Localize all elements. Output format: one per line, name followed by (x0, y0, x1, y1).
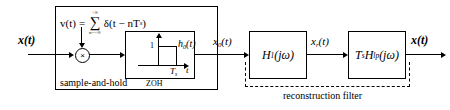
sigma-glyph: ∑ (90, 15, 101, 30)
xr-arg: (t) (319, 35, 329, 47)
wire-lowpass-to-output (406, 54, 441, 55)
lowpass-Ts-symbol: T (355, 48, 362, 63)
impulse-train-equals: = (79, 17, 85, 29)
zoh-plot-vaxis-arrowhead (156, 33, 162, 38)
h1-symbol: H (262, 48, 271, 63)
impulse-train-term: δ(t − nT (104, 17, 140, 29)
h1-arg: (jω) (274, 48, 294, 63)
zoh-time-axis-label: t (186, 65, 189, 75)
wire-impulse-train-to-multiplier (81, 27, 82, 44)
block-diagram: v(t) = +∞ ∑ n=−∞ δ(t − nTs) x(t) × 1 h0 (0, 0, 450, 110)
zoh-plot-horizontal-axis (138, 65, 185, 66)
zoh-plot-vertical-axis (158, 37, 159, 65)
zoh-output-signal-label: x0(t) (213, 35, 232, 48)
wire-input-to-multiplier (28, 54, 69, 55)
impulse-train-lhs: v(t) (60, 17, 76, 29)
zoh-h-arg: (t) (186, 38, 195, 49)
arrowhead-output (441, 52, 446, 58)
zoh-amplitude-tick-label: 1 (150, 41, 154, 50)
wire-zoh-to-h1 (195, 54, 244, 55)
zoh-pulse-top (158, 46, 176, 47)
reconstruction-filter-caption: reconstruction filter (283, 90, 362, 101)
multiplier-node: × (75, 48, 90, 63)
h1-output-signal-label: xr(t) (311, 35, 329, 48)
zoh-pulse-right-edge (176, 46, 177, 65)
summation-lower-limit: n=−∞ (89, 30, 101, 35)
reconstruction-filter-group-box (245, 62, 410, 87)
x0-arg: (t) (221, 35, 231, 47)
zoh-caption: ZOH (146, 79, 162, 88)
output-signal-label: x(t) (411, 33, 428, 48)
multiplier-symbol: × (80, 52, 85, 60)
input-signal-label: x(t) (18, 33, 35, 48)
lowpass-H-symbol: H (365, 48, 374, 63)
lowpass-arg: (jω) (379, 48, 399, 63)
wire-multiplier-to-zoh (89, 54, 120, 55)
zoh-Ts-subscript: s (175, 71, 177, 77)
summation-operator: +∞ ∑ n=−∞ (89, 10, 101, 35)
zoh-time-tick-label: Ts (170, 66, 177, 77)
impulse-train-term-close: ) (142, 17, 146, 29)
zoh-block: 1 h0(t) Ts t (125, 31, 195, 79)
zoh-impulse-response-label: h0(t) (178, 38, 196, 50)
sample-and-hold-caption: sample-and-hold (60, 77, 127, 88)
arrowhead-into-multiplier (69, 52, 74, 58)
wire-h1-to-lowpass (307, 54, 343, 55)
